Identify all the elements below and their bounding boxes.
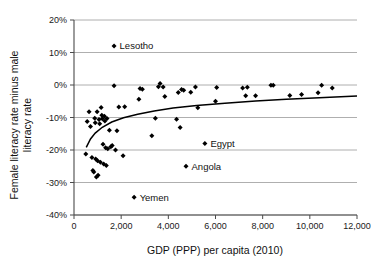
y-tick-label: -40% — [46, 210, 67, 220]
y-tick-label: -10% — [46, 113, 67, 123]
point-label-lesotho: Lesotho — [120, 40, 154, 51]
y-axis-title-line-2: literacy rate — [21, 98, 33, 152]
x-tick-label: 10,000 — [296, 221, 324, 231]
y-tick-label: 20% — [49, 15, 67, 25]
y-tick-label: -30% — [46, 178, 67, 188]
y-axis-title-line-1: Female literacy rate minus male — [8, 50, 20, 199]
y-tick-label: 0% — [54, 80, 67, 90]
x-tick-label: 4,000 — [157, 221, 180, 231]
x-tick-label: 2,000 — [110, 221, 133, 231]
point-label-yemen: Yemen — [140, 192, 169, 203]
chart-background — [0, 0, 372, 272]
point-label-angola: Angola — [192, 161, 222, 172]
x-tick-label: 6,000 — [204, 221, 227, 231]
scatter-chart: 20%10%0%-10%-20%-30%-40% 02,0004,0006,00… — [0, 0, 372, 272]
x-tick-label: 8,000 — [251, 221, 274, 231]
y-tick-label: 10% — [49, 48, 67, 58]
point-label-egypt: Egypt — [210, 138, 235, 149]
y-tick-label: -20% — [46, 145, 67, 155]
x-axis-title: GDP (PPP) per capita (2010) — [147, 244, 283, 256]
x-tick-label: 0 — [71, 221, 76, 231]
x-tick-label: 12,000 — [343, 221, 371, 231]
chart-canvas: 20%10%0%-10%-20%-30%-40% 02,0004,0006,00… — [0, 0, 372, 272]
